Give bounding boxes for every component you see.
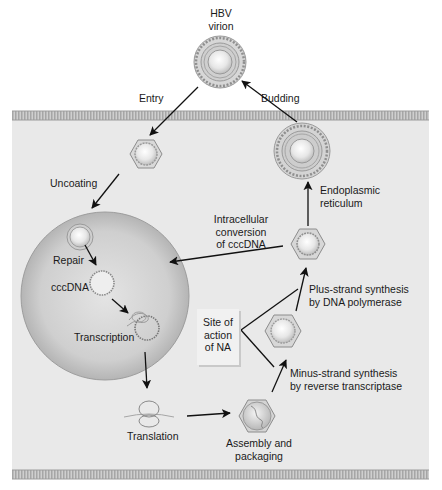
label-endoplasmic-reticulum: Endoplasmic reticulum (320, 184, 380, 209)
label-site-of-action: Site of action of NA (197, 316, 239, 354)
cell-membrane-bottom (12, 470, 429, 479)
hbv-virion-icon (194, 36, 246, 88)
label-hbv-virion: HBV virion (206, 7, 236, 32)
label-minus-line2: by reverse transcriptase (290, 380, 402, 393)
label-entry: Entry (139, 92, 164, 105)
er-virion-icon (274, 123, 330, 179)
label-cccdna: cccDNA (51, 281, 89, 294)
label-plus-strand-synthesis: Plus-strand synthesis by DNA polymerase (309, 283, 409, 308)
uncoated-capsid-icon (67, 224, 93, 250)
cell-membrane-top (12, 111, 429, 120)
label-intracellular-line1: Intracellular (202, 213, 280, 226)
label-site-line1: Site of (197, 316, 239, 329)
label-er-line2: reticulum (320, 197, 380, 210)
label-budding: Budding (261, 92, 300, 105)
label-minus-line1: Minus-strand synthesis (290, 367, 402, 380)
label-assembly-line1: Assembly and (224, 437, 294, 450)
label-intracellular-conversion: Intracellular conversion of cccDNA (202, 213, 280, 251)
label-assembly-line2: packaging (224, 450, 294, 463)
label-hbv: HBV (206, 7, 236, 20)
label-plus-line1: Plus-strand synthesis (309, 283, 409, 296)
label-uncoating: Uncoating (50, 177, 97, 190)
label-virion: virion (206, 20, 236, 33)
label-repair: Repair (53, 254, 84, 267)
label-er-line1: Endoplasmic (320, 184, 380, 197)
label-intracellular-line3: of cccDNA (202, 238, 280, 251)
nucleus (21, 212, 189, 380)
label-site-line3: of NA (197, 341, 239, 354)
label-plus-line2: by DNA polymerase (309, 296, 409, 309)
label-translation: Translation (127, 430, 179, 443)
label-site-line2: action (197, 329, 239, 342)
label-transcription: Transcription (74, 331, 134, 344)
label-intracellular-line2: conversion (202, 226, 280, 239)
label-assembly-packaging: Assembly and packaging (224, 437, 294, 462)
label-minus-strand-synthesis: Minus-strand synthesis by reverse transc… (290, 367, 402, 392)
cccdna-icon (90, 271, 114, 295)
